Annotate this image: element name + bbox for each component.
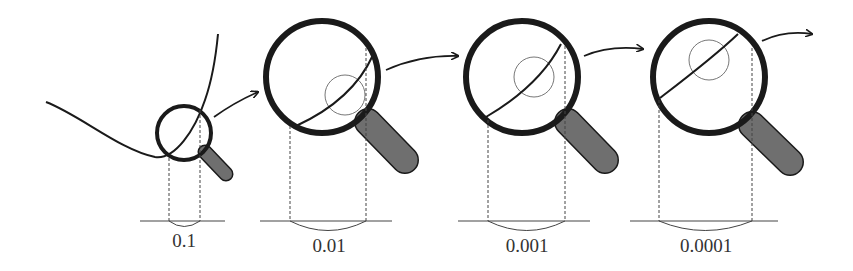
interval-brace [169, 221, 200, 227]
magnification-diagram: 0.1 0.01 0.001 [0, 0, 853, 271]
panel-4: 0.0001 [630, 21, 812, 256]
panel-2: 0.01 [260, 21, 458, 256]
interval-label: 0.0001 [680, 235, 732, 256]
magnifier-lens [653, 21, 765, 133]
arrow [762, 33, 812, 41]
magnifier-lens [157, 106, 211, 160]
interval-brace [488, 221, 565, 231]
magnifier-lens [466, 21, 578, 133]
magnifier-handle [205, 152, 226, 174]
curve [46, 34, 218, 157]
interval-label: 0.01 [312, 235, 345, 256]
magnifier-handle [752, 125, 790, 162]
arrow [386, 56, 458, 70]
arrow [584, 48, 643, 56]
arrow [214, 92, 258, 117]
magnifier-handle [568, 122, 605, 160]
curve [486, 44, 561, 117]
panel-3: 0.001 [458, 21, 643, 256]
magnifier-handle [368, 122, 405, 160]
interval-label: 0.1 [172, 230, 196, 251]
interval-label: 0.001 [506, 235, 549, 256]
interval-brace [659, 221, 752, 231]
panel-1: 0.1 [46, 34, 258, 251]
interval-brace [290, 221, 366, 231]
curve [660, 34, 738, 98]
